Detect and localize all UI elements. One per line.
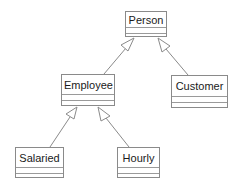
class-employee[interactable]: Employee	[61, 74, 115, 106]
arrow-customer-to-person	[158, 38, 188, 75]
class-hourly[interactable]: Hourly	[117, 147, 160, 178]
operations-compartment	[16, 174, 63, 180]
class-name: Hourly	[118, 148, 159, 168]
operations-compartment	[62, 101, 114, 107]
uml-diagram-canvas: Person Employee Customer Salaried Hourly	[0, 0, 242, 188]
class-name: Employee	[62, 75, 114, 95]
operations-compartment	[172, 103, 227, 109]
arrow-hourly-to-employee	[98, 107, 129, 147]
arrow-employee-to-person	[104, 38, 134, 74]
class-customer[interactable]: Customer	[171, 75, 228, 108]
class-name: Person	[126, 12, 166, 28]
class-name: Customer	[172, 76, 227, 97]
operations-compartment	[118, 174, 159, 180]
class-salaried[interactable]: Salaried	[15, 147, 64, 178]
class-person[interactable]: Person	[125, 11, 167, 37]
arrow-salaried-to-employee	[50, 107, 77, 147]
operations-compartment	[126, 34, 166, 39]
class-name: Salaried	[16, 148, 63, 168]
